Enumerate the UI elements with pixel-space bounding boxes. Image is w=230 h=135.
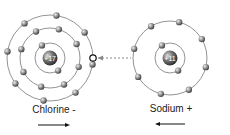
chlorine-arrowhead: [65, 123, 70, 127]
electron: [73, 41, 79, 47]
electron: [20, 69, 26, 75]
electron: [158, 91, 164, 97]
chlorine-atom: +17: [4, 12, 95, 103]
electron: [38, 83, 44, 89]
electron: [55, 67, 61, 73]
electron: [39, 42, 45, 48]
electron: [40, 97, 46, 103]
electron: [199, 36, 205, 42]
electron: [12, 80, 18, 86]
electron: [175, 67, 181, 73]
electron: [135, 74, 141, 80]
electron: [159, 42, 165, 48]
electron: [176, 19, 182, 25]
electron: [75, 64, 81, 70]
electron: [61, 81, 67, 87]
electron: [4, 48, 10, 54]
sodium-arrowhead: [155, 122, 160, 126]
electron: [131, 46, 137, 52]
electron: [203, 64, 209, 70]
sodium-atom: +11: [131, 19, 209, 97]
electron: [186, 87, 192, 93]
transferred-electron-hole: [90, 55, 96, 61]
electron: [33, 28, 39, 34]
electron: [89, 61, 95, 67]
sodium-label: Sodium +: [131, 103, 211, 114]
electron: [148, 23, 154, 29]
chlorine-label: Chlorine -: [14, 104, 94, 115]
electron: [72, 89, 78, 95]
electron: [53, 12, 59, 18]
electron: [56, 26, 62, 32]
transfer-arrowhead: [98, 56, 103, 61]
nucleus-charge: +17: [44, 55, 56, 62]
electron: [81, 29, 87, 35]
electron: [18, 46, 24, 52]
nucleus-charge: +11: [164, 55, 175, 62]
electron: [21, 20, 27, 26]
